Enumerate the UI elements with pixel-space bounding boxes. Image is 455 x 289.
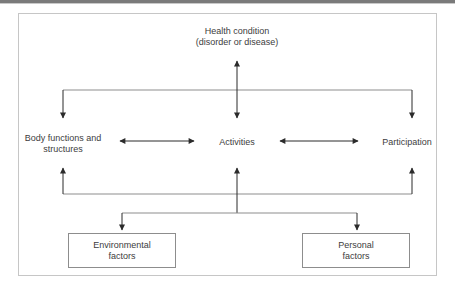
box-personal-factors-label: Personal factors — [338, 240, 374, 262]
box-personal-factors: Personal factors — [302, 233, 410, 268]
box-environmental-factors-label: Environmental factors — [93, 240, 151, 262]
node-body-functions-and-structures: Body functions and structures — [8, 133, 118, 155]
icf-diagram-figure: Health condition (disorder or disease) B… — [0, 0, 455, 289]
node-health-condition: Health condition (disorder or disease) — [157, 26, 317, 48]
page-top-rule-shadow — [0, 3, 455, 4]
box-environmental-factors: Environmental factors — [68, 233, 176, 268]
node-activities: Activities — [197, 137, 277, 148]
node-participation: Participation — [362, 137, 452, 148]
